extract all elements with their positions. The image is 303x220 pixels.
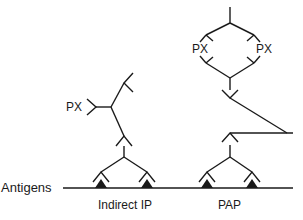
antigens-label: Antigens — [1, 180, 52, 195]
diagram-canvas: Antigens PX PX PX Indirect IP PAP — [0, 0, 303, 220]
indirect-ip-structure — [87, 73, 155, 182]
method-label-indirect: Indirect IP — [98, 198, 152, 212]
pap-complex-icon — [200, 7, 260, 90]
px-label-pap-left: PX — [192, 42, 208, 56]
secondary-antibody-icon — [87, 73, 133, 146]
antigen-triangle-icon — [95, 179, 107, 188]
bridge-antibody-icon — [222, 90, 293, 142]
method-label-pap: PAP — [218, 198, 241, 212]
antigen-triangle-icon — [201, 179, 213, 188]
antigen-triangle-icon — [246, 179, 258, 188]
antigen-markers — [95, 179, 258, 188]
px-label-pap-right: PX — [256, 42, 272, 56]
primary-antibody-icon — [93, 146, 155, 182]
pap-structure — [199, 7, 293, 182]
pap-primary-antibody-icon — [199, 145, 260, 182]
px-label-indirect: PX — [66, 100, 82, 114]
immunostaining-diagram: Antigens PX PX PX Indirect IP PAP — [0, 0, 303, 220]
antigen-triangle-icon — [141, 179, 153, 188]
